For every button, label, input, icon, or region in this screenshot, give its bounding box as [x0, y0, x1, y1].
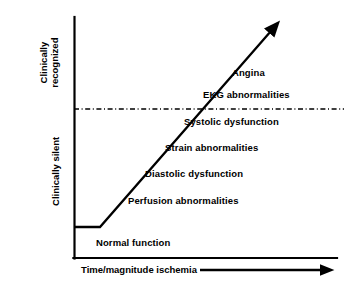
cascade-label-systolic-dysfunction: Systolic dysfunction: [184, 117, 279, 127]
y-axis-label-clinically-recognized: Clinically recognized: [39, 27, 60, 99]
cascade-label-strain-abnormalities: Strain abnormalities: [165, 143, 258, 153]
ischemic-cascade-figure: Clinically recognized Clinically silent …: [0, 0, 351, 293]
y-axis-label-clinically-silent: Clinically silent: [51, 127, 62, 215]
cascade-label-perfusion-abnormalities: Perfusion abnormalities: [128, 196, 239, 206]
cascade-label-angina: Angina: [232, 68, 265, 78]
cascade-label-ekg-abnormalities: EKG abnormalities: [203, 90, 290, 100]
cascade-label-diastolic-dysfunction: Diastolic dysfunction: [145, 169, 243, 179]
x-axis-label: Time/magnitude ischemia: [78, 265, 200, 275]
cascade-label-normal-function: Normal function: [96, 238, 170, 248]
y-axis-label-line-2: recognized: [50, 27, 61, 99]
